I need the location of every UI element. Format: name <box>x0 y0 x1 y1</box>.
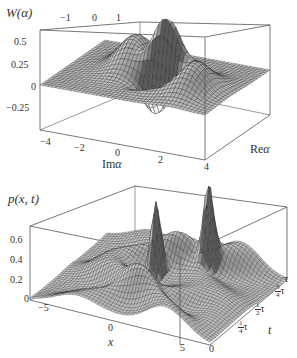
z-tick-0-4: 0.4 <box>10 255 23 265</box>
denominator: 4 <box>239 328 243 335</box>
t-tick-three-quarter: 34τ <box>275 284 285 299</box>
x-tick-0: 0 <box>108 323 113 333</box>
denominator: 2 <box>256 310 260 317</box>
im-text: Im <box>102 157 115 171</box>
x-tick-2: 2 <box>158 155 163 165</box>
alpha-symbol: α <box>115 157 121 171</box>
t-tick-0: 0 <box>209 344 214 354</box>
x-tick-4: 4 <box>204 162 209 172</box>
y-axis-label-re-alpha: Reα <box>250 143 270 155</box>
z-tick-0-25: 0.25 <box>11 60 29 70</box>
re-text: Re <box>250 142 263 156</box>
tau-symbol: τ <box>244 321 248 332</box>
alpha-symbol: α <box>263 142 269 156</box>
back-tick-neg1: −1 <box>60 13 71 23</box>
back-tick-0: 0 <box>92 13 97 23</box>
x-tick-neg2: −2 <box>74 143 85 153</box>
t-tick-half: 12τ <box>255 302 265 317</box>
z-tick-neg-0-25: −0.25 <box>6 103 29 113</box>
z-tick-0-6: 0.6 <box>10 235 23 245</box>
z-axis-label-w-alpha: W(α) <box>6 6 32 19</box>
x-tick-neg5: −5 <box>38 303 49 313</box>
probability-density-plot: p(x, t) 0.6 0.4 0.2 0 −5 0 5 x 0 14τ 12τ… <box>0 180 297 358</box>
wigner-function-plot: W(α) −1 0 1 0.5 0.25 0 −0.25 −4 −2 0 2 4… <box>0 0 297 180</box>
z-axis-label-p-x-t: p(x, t) <box>8 192 39 205</box>
denominator: 4 <box>276 292 280 299</box>
z-tick-0: 0 <box>24 294 29 304</box>
t-tick-tau: τ <box>284 273 288 284</box>
x-tick-5: 5 <box>180 343 185 353</box>
x-axis-label: x <box>108 336 113 348</box>
z-tick-0: 0 <box>31 82 36 92</box>
tau-symbol: τ <box>281 285 285 296</box>
z-tick-0-5: 0.5 <box>14 37 27 47</box>
x-axis-label-im-alpha: Imα <box>102 158 122 170</box>
t-tick-quarter: 14τ <box>238 320 248 335</box>
density-surface-canvas <box>0 180 297 358</box>
z-tick-0-2: 0.2 <box>10 275 23 285</box>
t-axis-label: t <box>268 324 271 336</box>
back-tick-1: 1 <box>116 13 121 23</box>
tau-symbol: τ <box>261 303 265 314</box>
x-tick-neg4: −4 <box>40 137 51 147</box>
